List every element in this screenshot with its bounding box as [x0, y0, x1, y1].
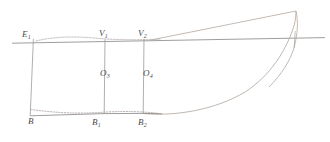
- label-v2-sub: 2: [144, 33, 147, 39]
- label-o3: O3: [100, 69, 110, 78]
- label-b1: B1: [92, 118, 101, 127]
- label-o4-base: O: [143, 68, 150, 78]
- label-e1-base: E: [22, 29, 28, 39]
- label-o4: O4: [143, 69, 153, 78]
- baseline: [30, 113, 162, 115]
- waterline: [12, 38, 325, 44]
- label-e1: E1: [22, 30, 31, 39]
- label-b1-sub: 1: [98, 122, 101, 128]
- label-v1-sub: 1: [105, 33, 108, 39]
- diagram-canvas: [0, 0, 330, 142]
- label-b: B: [28, 117, 34, 126]
- label-v1-base: V: [99, 28, 105, 38]
- stem-curve: [269, 11, 297, 87]
- label-b1-base: B: [92, 117, 98, 127]
- label-o3-base: O: [100, 68, 107, 78]
- label-b2: B2: [138, 118, 147, 127]
- label-o4-sub: 4: [150, 73, 153, 79]
- label-b2-sub: 2: [144, 122, 147, 128]
- label-o3-sub: 3: [107, 73, 110, 79]
- label-b-base: B: [28, 116, 34, 126]
- bottom-dotted-curve: [31, 110, 158, 114]
- label-v2-base: V: [138, 28, 144, 38]
- label-e1-sub: 1: [28, 34, 31, 40]
- station-line-e1: [30, 39, 33, 116]
- label-v2: V2: [138, 29, 147, 38]
- ship-hull-lines-diagram: E1 V1 V2 O3 O4 B B1 B2: [0, 0, 330, 142]
- label-v1: V1: [99, 29, 108, 38]
- station-line-right: [294, 31, 295, 48]
- label-b2-base: B: [138, 117, 144, 127]
- deck-diagonal-line: [150, 11, 296, 40]
